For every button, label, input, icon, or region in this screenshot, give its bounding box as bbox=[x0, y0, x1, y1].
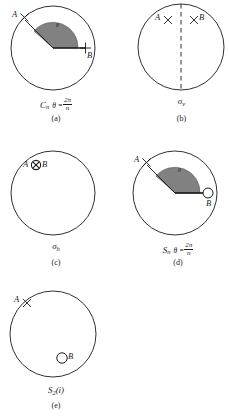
open-circle-marker-b-panel-e bbox=[57, 353, 67, 363]
point-label-a-panel-b: A bbox=[155, 12, 160, 22]
point-label-a-panel-d: A bbox=[134, 154, 139, 164]
panel-letter-e: (e) bbox=[8, 401, 104, 410]
caption-subscript-d: n bbox=[167, 248, 170, 255]
panel-a-drawing bbox=[6, 3, 106, 95]
fraction-denominator-d: n bbox=[184, 250, 193, 257]
panel-letter-a: (a) bbox=[8, 114, 104, 123]
caption-panel-a: Cnθ =2πn bbox=[8, 97, 104, 113]
caption-panel-e: S2(i) bbox=[8, 386, 104, 396]
panel-b-drawing bbox=[134, 0, 229, 95]
circled-x-marker-panel-c bbox=[31, 160, 40, 169]
point-label-b-panel-e: B bbox=[68, 351, 73, 361]
panel-letter-c: (c) bbox=[8, 258, 104, 267]
point-label-b-panel-b: B bbox=[199, 12, 204, 22]
angle-label-d: θ bbox=[178, 167, 181, 173]
caption-condition-d: θ = bbox=[174, 246, 185, 255]
panel-c-sigma-h: A B bbox=[6, 148, 106, 240]
caption-subscript-b: v bbox=[182, 100, 185, 107]
circle-outline-e bbox=[10, 291, 96, 377]
point-label-a-panel-a: A bbox=[12, 9, 17, 19]
caption-panel-d: Snθ =2πn bbox=[130, 242, 226, 258]
fraction-denominator-a: n bbox=[63, 105, 72, 112]
panel-letter-b: (b) bbox=[134, 114, 229, 123]
cross-x-marker-a-panel-d bbox=[143, 159, 151, 167]
panel-b-sigma-v: A B bbox=[134, 0, 229, 95]
point-label-b-panel-d: B bbox=[206, 198, 211, 208]
panel-d-sn-improper-rotation: A B θ bbox=[128, 148, 228, 240]
point-label-b-panel-c: B bbox=[42, 159, 47, 169]
caption-panel-b: σv bbox=[134, 97, 229, 107]
panel-a-cn-rotation: A B θ bbox=[6, 3, 106, 95]
panel-c-drawing bbox=[6, 148, 106, 240]
point-label-b-panel-a: B bbox=[87, 50, 92, 60]
cross-x-marker-a-panel-b bbox=[164, 16, 172, 24]
caption-panel-c: σh bbox=[8, 242, 104, 252]
panel-letter-d: (d) bbox=[130, 258, 226, 267]
panel-d-drawing bbox=[128, 148, 228, 240]
caption-condition-a: θ = bbox=[52, 101, 63, 110]
panel-e-drawing bbox=[6, 287, 106, 383]
point-label-a-panel-c: A bbox=[23, 159, 28, 169]
caption-subscript-c: h bbox=[57, 245, 60, 252]
panel-e-s2-inversion: A B bbox=[6, 287, 106, 383]
point-label-a-panel-e: A bbox=[14, 294, 19, 304]
symmetry-operations-figure: A B θ Cnθ =2πn (a) A B σv (b) bbox=[0, 0, 229, 418]
angle-label-a: θ bbox=[56, 22, 59, 28]
cross-x-marker-b-panel-b bbox=[190, 16, 198, 24]
caption-condition-e: (i) bbox=[56, 385, 65, 395]
open-circle-marker-b-panel-d bbox=[203, 188, 213, 198]
caption-subscript-a: n bbox=[46, 103, 49, 110]
caption-fraction-d: 2πn bbox=[184, 242, 193, 258]
caption-fraction-a: 2πn bbox=[63, 97, 72, 113]
cross-x-marker-a bbox=[21, 14, 29, 22]
